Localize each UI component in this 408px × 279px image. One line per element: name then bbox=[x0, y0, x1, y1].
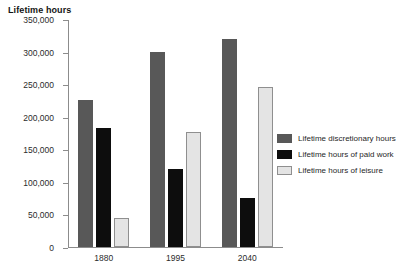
y-axis-tick-label: 100,000 bbox=[23, 178, 54, 188]
legend-swatch-icon bbox=[277, 150, 292, 159]
bar bbox=[78, 100, 93, 247]
y-axis-tick: 100,000 bbox=[63, 183, 68, 184]
x-axis-label: 1880 bbox=[94, 253, 113, 263]
legend-swatch-icon bbox=[277, 134, 292, 143]
bar bbox=[240, 198, 255, 247]
x-axis-label: 1995 bbox=[166, 253, 185, 263]
y-axis-tick-label: 150,000 bbox=[23, 145, 54, 155]
legend-item: Lifetime hours of paid work bbox=[277, 149, 405, 160]
legend-label: Lifetime discretionary hours bbox=[298, 134, 396, 144]
y-axis-tick: 250,000 bbox=[63, 85, 68, 86]
legend-label: Lifetime hours of leisure bbox=[298, 166, 383, 176]
y-axis-title: Lifetime hours bbox=[8, 5, 71, 15]
y-axis-line bbox=[68, 20, 69, 248]
legend-label: Lifetime hours of paid work bbox=[298, 150, 394, 160]
y-axis-tick: 300,000 bbox=[63, 53, 68, 54]
y-axis-tick: 350,000 bbox=[63, 20, 68, 21]
y-axis-tick: 50,000 bbox=[63, 215, 68, 216]
y-axis-tick-label: 300,000 bbox=[23, 48, 54, 58]
y-axis-tick-label: 250,000 bbox=[23, 80, 54, 90]
bar bbox=[222, 39, 237, 247]
chart-legend: Lifetime discretionary hoursLifetime hou… bbox=[277, 133, 405, 181]
bar bbox=[168, 169, 183, 247]
y-axis-tick-label: 350,000 bbox=[23, 15, 54, 25]
x-axis-label: 2040 bbox=[238, 253, 257, 263]
bar bbox=[114, 218, 129, 247]
bar-chart: Lifetime hours 050,000100,000150,000200,… bbox=[0, 0, 408, 279]
y-axis-tick-label: 0 bbox=[49, 243, 54, 253]
legend-item: Lifetime hours of leisure bbox=[277, 165, 405, 176]
y-axis-tick: 0 bbox=[63, 248, 68, 249]
legend-swatch-icon bbox=[277, 166, 292, 175]
bar bbox=[150, 52, 165, 247]
y-axis-tick-label: 200,000 bbox=[23, 113, 54, 123]
y-axis-tick: 200,000 bbox=[63, 118, 68, 119]
bar bbox=[258, 87, 273, 247]
bar bbox=[96, 128, 111, 247]
plot-area: 050,000100,000150,000200,000250,000300,0… bbox=[68, 20, 283, 248]
legend-item: Lifetime discretionary hours bbox=[277, 133, 405, 144]
x-axis-line bbox=[68, 247, 283, 248]
y-axis-tick: 150,000 bbox=[63, 150, 68, 151]
bar bbox=[186, 132, 201, 247]
y-axis-tick-label: 50,000 bbox=[28, 210, 54, 220]
